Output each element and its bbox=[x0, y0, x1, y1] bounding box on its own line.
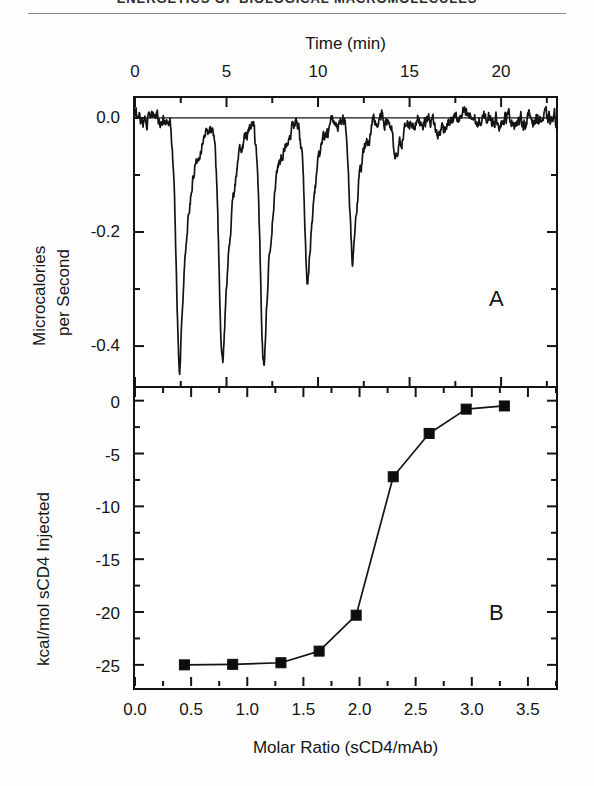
panel-b-data-point-7 bbox=[424, 428, 434, 438]
panel-b-x-tick-labels: 0.00.51.01.52.02.53.03.5 bbox=[133, 700, 558, 720]
x-tick-label: 10 bbox=[309, 62, 328, 82]
panel-a-y-axis-title-line2: per Second bbox=[54, 249, 74, 336]
panel-b-label: B bbox=[489, 600, 504, 626]
panel-a-y-axis-title-line1: Microcalories bbox=[30, 246, 50, 346]
panel-b-data-point-6 bbox=[388, 472, 398, 482]
panel-b-x-axis-title: Molar Ratio (sCD4/mAb) bbox=[133, 738, 558, 758]
panel-a-x-tick-labels: 05101520 bbox=[133, 62, 558, 82]
panel-b-data-point-5 bbox=[351, 610, 361, 620]
x-tick-label: 0.5 bbox=[179, 700, 203, 720]
panel-a-label: A bbox=[489, 286, 504, 312]
x-tick-label: 2.5 bbox=[404, 700, 428, 720]
panel-b-plot-frame bbox=[133, 388, 558, 690]
panel-a-plot-frame bbox=[133, 96, 558, 388]
x-tick-label: 3.5 bbox=[516, 700, 540, 720]
panel-b-data-point-9 bbox=[499, 401, 509, 411]
panel-b-data-point-3 bbox=[276, 658, 286, 668]
x-tick-label: 1.0 bbox=[235, 700, 259, 720]
panel-a-x-axis-title: Time (min) bbox=[133, 34, 558, 54]
x-tick-label: 15 bbox=[400, 62, 419, 82]
x-tick-label: 3.0 bbox=[460, 700, 484, 720]
panel-b-binding-isotherm bbox=[135, 388, 556, 688]
panel-b-fit-line bbox=[184, 406, 504, 665]
x-tick-label: 2.0 bbox=[348, 700, 372, 720]
y-tick-label: -5 bbox=[40, 446, 120, 466]
panel-b-data-point-8 bbox=[461, 404, 471, 414]
figure-itc-two-panel: Time (min) 05101520 0.0-0.2-0.4 Microcal… bbox=[0, 0, 594, 786]
x-tick-label: 5 bbox=[222, 62, 231, 82]
x-tick-label: 0 bbox=[130, 62, 139, 82]
x-tick-label: 20 bbox=[492, 62, 511, 82]
y-tick-label: 0 bbox=[40, 393, 120, 413]
panel-a-thermogram bbox=[135, 98, 556, 386]
y-tick-label: 0.0 bbox=[40, 108, 120, 128]
y-tick-label: -0.2 bbox=[40, 222, 120, 242]
x-tick-label: 1.5 bbox=[292, 700, 316, 720]
panel-b-data-point-2 bbox=[228, 659, 238, 669]
y-tick-label: -0.4 bbox=[40, 336, 120, 356]
panel-b-y-axis-title: kcal/mol sCD4 Injected bbox=[34, 492, 54, 666]
panel-b-data-point-1 bbox=[179, 660, 189, 670]
x-tick-label: 0.0 bbox=[123, 700, 147, 720]
panel-b-data-point-4 bbox=[314, 646, 324, 656]
panel-a-trace bbox=[135, 107, 556, 375]
book-page: ENERGETICS OF BIOLOGICAL MACROMOLECULES … bbox=[0, 0, 594, 786]
